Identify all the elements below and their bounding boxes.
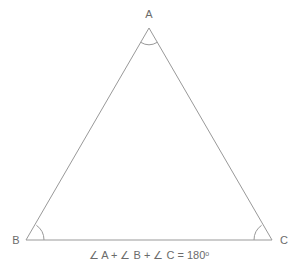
degree-symbol: o bbox=[205, 250, 209, 257]
triangle-angle-sum-figure: A B C ∠ A + ∠ B + ∠ C = 180o bbox=[0, 0, 299, 269]
angle-arc-b bbox=[36, 225, 44, 240]
vertex-label-c: C bbox=[280, 234, 288, 246]
vertex-label-b: B bbox=[12, 234, 19, 246]
angle-arc-a bbox=[141, 42, 158, 44]
angle-sum-caption: ∠ A + ∠ B + ∠ C = 180o bbox=[89, 249, 210, 261]
angle-arc-c bbox=[254, 225, 262, 240]
triangle-side-ac bbox=[149, 28, 272, 240]
vertex-label-a: A bbox=[145, 8, 153, 20]
triangle-side-ab bbox=[26, 28, 149, 240]
angle-sum-caption-expression: ∠ A + ∠ B + ∠ C = 180 bbox=[89, 249, 206, 261]
